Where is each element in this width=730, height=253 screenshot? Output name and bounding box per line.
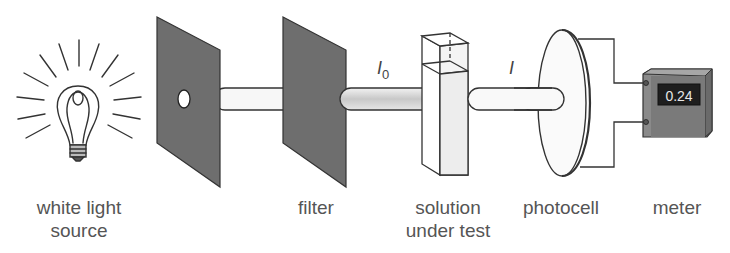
aperture-plate <box>157 17 220 187</box>
cuvette <box>422 33 468 175</box>
circuit-wires <box>578 39 646 167</box>
label-photocell: photocell <box>516 196 606 219</box>
label-white-light-source: white light source <box>28 196 130 242</box>
label-solution-under-test: solution under test <box>398 196 498 242</box>
meter-reading: 0.24 <box>665 88 692 104</box>
filter-plate <box>283 17 346 187</box>
label-meter: meter <box>642 196 712 219</box>
transmitted-intensity-symbol: I <box>509 58 514 79</box>
incident-intensity-symbol: I0 <box>377 58 389 82</box>
meter-device: 0.24 <box>643 69 712 137</box>
light-bulb-icon <box>17 40 141 161</box>
label-filter: filter <box>286 196 346 219</box>
